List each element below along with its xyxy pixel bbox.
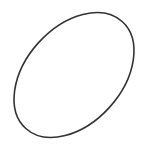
drawing-canvas [0,0,146,145]
ellipse-outline [0,0,146,145]
ellipse-diagram [0,0,146,145]
